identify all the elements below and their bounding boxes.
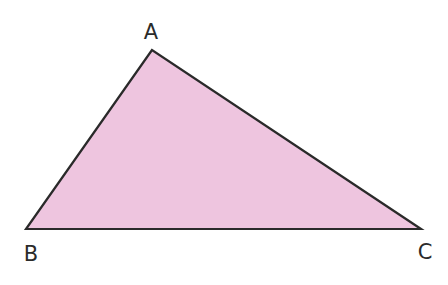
vertex-label-c: C — [418, 242, 433, 263]
diagram-canvas: A B C — [0, 0, 448, 285]
vertex-label-a: A — [144, 22, 158, 43]
triangle-figure — [0, 0, 448, 285]
vertex-label-b: B — [24, 244, 38, 265]
triangle-abc — [26, 50, 421, 229]
